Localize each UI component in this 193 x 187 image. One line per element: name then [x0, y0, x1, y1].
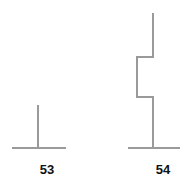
figure-53-caption: 53 [36, 163, 58, 177]
figure-board: 53 54 [0, 0, 193, 187]
figure-54-path [137, 13, 153, 148]
figure-54-group [128, 13, 180, 148]
figure-canvas [0, 0, 193, 187]
figure-54-caption: 54 [152, 163, 174, 177]
figure-53-group [12, 105, 66, 148]
